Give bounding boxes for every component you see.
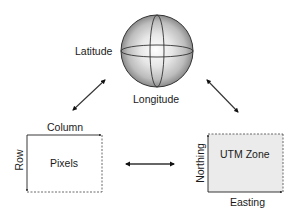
pixels-label: Pixels xyxy=(50,157,78,169)
globe-icon xyxy=(121,15,193,87)
latitude-label: Latitude xyxy=(75,45,112,57)
column-label: Column xyxy=(47,121,83,133)
coordinate-systems-diagram: Latitude Longitude Column Pixels Row UTM… xyxy=(0,0,297,217)
arrow-globe-utm xyxy=(207,80,238,112)
diagram-canvas xyxy=(0,0,297,217)
longitude-label: Longitude xyxy=(133,93,179,105)
arrow-globe-pixels xyxy=(73,80,105,110)
utm-space-box xyxy=(208,134,283,192)
row-label: Row xyxy=(13,149,25,171)
utm-zone-label: UTM Zone xyxy=(220,148,270,160)
northing-label: Northing xyxy=(194,141,206,185)
easting-label: Easting xyxy=(230,196,265,208)
